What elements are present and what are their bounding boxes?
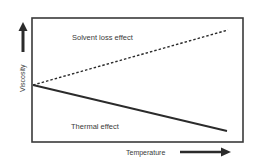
thermal-effect-line bbox=[33, 85, 227, 131]
x-axis-arrow-icon bbox=[180, 148, 231, 157]
y-axis-label: Viscosity bbox=[19, 64, 27, 92]
plot-frame bbox=[32, 18, 243, 142]
viscosity-temperature-diagram: Solvent loss effect Thermal effect Visco… bbox=[0, 0, 261, 167]
solvent-loss-label: Solvent loss effect bbox=[72, 33, 134, 42]
x-axis-label: Temperature bbox=[126, 149, 165, 157]
thermal-effect-label: Thermal effect bbox=[71, 122, 120, 131]
y-axis-arrow-icon bbox=[19, 22, 28, 52]
